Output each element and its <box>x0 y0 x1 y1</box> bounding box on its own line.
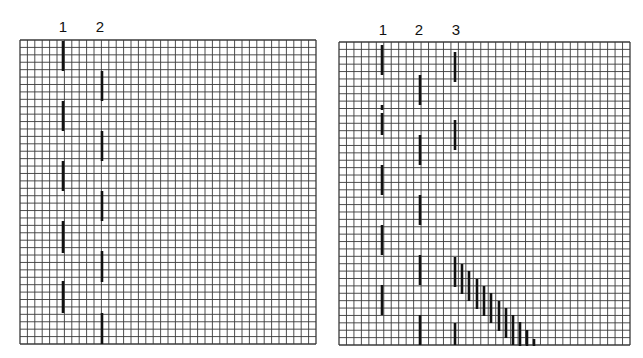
grid-paper-right <box>0 0 643 358</box>
column-label-1: 1 <box>379 22 387 37</box>
column-label-3: 3 <box>452 22 460 37</box>
column-label-2: 2 <box>415 22 423 37</box>
